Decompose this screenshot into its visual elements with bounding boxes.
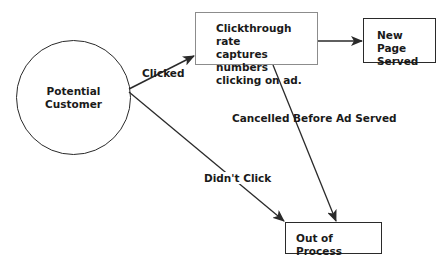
node-clickthrough: Clickthrough rate captures numbers click…: [195, 12, 318, 65]
node-potential-customer-line1: Potential: [45, 85, 102, 98]
node-out-of-process: Out of Process: [285, 222, 382, 254]
node-clickthrough-line2: captures numbers: [216, 48, 317, 74]
edge-label-didnt-click: Didn't Click: [203, 172, 272, 184]
edge-label-clicked: Clicked: [142, 67, 184, 79]
node-new-page-served: New Page Served: [363, 18, 436, 63]
node-potential-customer-line2: Customer: [45, 98, 102, 111]
node-clickthrough-line1: Clickthrough rate: [216, 22, 317, 48]
edge-label-cancelled: Cancelled Before Ad Served: [232, 112, 397, 124]
node-new-page-line2: Served: [377, 55, 435, 68]
node-new-page-line1: New Page: [377, 29, 435, 55]
node-potential-customer: Potential Customer: [16, 40, 131, 155]
edge-cancelled: [273, 65, 336, 221]
node-out-of-process-line1: Out of Process: [296, 232, 381, 258]
node-clickthrough-line3: clicking on ad.: [216, 74, 317, 87]
